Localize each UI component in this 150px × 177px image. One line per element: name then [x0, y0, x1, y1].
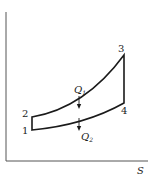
q-in-label: Q1: [74, 84, 86, 96]
q-out-sub: 2: [88, 136, 93, 143]
point-label-1: 1: [22, 125, 28, 136]
q-out-symbol: Q: [81, 131, 89, 142]
q-in-symbol: Q: [74, 84, 82, 95]
point-label-3: 3: [118, 43, 124, 54]
point-label-4: 4: [121, 105, 127, 116]
ts-diagram: 1 2 3 4 Q1 Q2 S: [0, 0, 150, 177]
q-out-label: Q2: [81, 131, 93, 143]
x-axis-label: S: [137, 165, 144, 176]
q-in-sub: 1: [82, 89, 86, 96]
point-label-2: 2: [22, 108, 28, 119]
q-out-arrow: [77, 118, 81, 131]
